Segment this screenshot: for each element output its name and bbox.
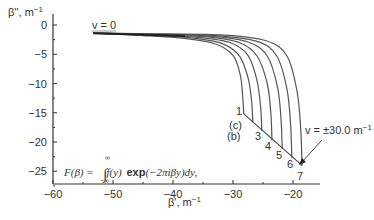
x-tick-label: −50 bbox=[104, 188, 123, 200]
chart: −60−50−40−30−20 0−5−10−15−20−25 β'', m−1… bbox=[0, 0, 374, 220]
y-tick-label: 0 bbox=[41, 19, 47, 31]
x-tick-label: −20 bbox=[284, 188, 303, 200]
v-thirty-arrow-line bbox=[302, 140, 322, 162]
v-thirty-label: v = ±30.0 m−1 bbox=[305, 123, 372, 136]
curve-4 bbox=[93, 33, 272, 140]
x-tick-label: −30 bbox=[224, 188, 243, 200]
curve-label-1: 1 bbox=[236, 105, 242, 117]
x-tick-label: −60 bbox=[44, 188, 63, 200]
y-tick-label: −10 bbox=[28, 78, 47, 90]
envelope-line bbox=[244, 114, 302, 165]
y-tick-label: −20 bbox=[28, 136, 47, 148]
curve-label-5: 5 bbox=[276, 149, 282, 161]
curve-5 bbox=[93, 33, 282, 149]
curve-2 bbox=[93, 33, 253, 122]
curve-6 bbox=[93, 33, 292, 158]
curve-label-4: 4 bbox=[265, 140, 271, 152]
curve-label-b: (b) bbox=[227, 130, 240, 142]
integral-upper-limit: ∞ bbox=[105, 154, 110, 161]
x-axis-title: β', m−1 bbox=[168, 195, 201, 208]
y-tick-label: −15 bbox=[28, 107, 47, 119]
curve-1 bbox=[93, 33, 244, 114]
y-axis-title: β'', m−1 bbox=[8, 5, 43, 18]
y-tick-label: −25 bbox=[28, 165, 47, 177]
formula: F(β) = f(y) exp(−2πiβy)dy, bbox=[63, 166, 197, 179]
curve-label-6: 6 bbox=[287, 158, 293, 170]
y-tick-label: −5 bbox=[34, 48, 47, 60]
curve-label-7: 7 bbox=[297, 170, 303, 182]
curve-label-3: 3 bbox=[255, 130, 261, 142]
v-zero-label: v = 0 bbox=[92, 19, 116, 31]
integral-lower-limit: −∞ bbox=[100, 177, 109, 184]
